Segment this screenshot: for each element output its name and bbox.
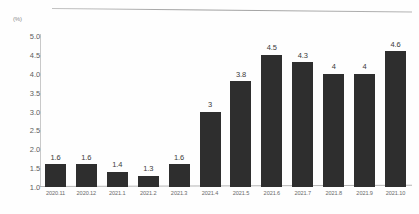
y-axis-tick-label: 1.0 — [16, 183, 40, 192]
bar-chart-figure: (%) 1.01.52.02.53.03.54.04.55.0 1.61.61.… — [0, 0, 419, 214]
x-axis-tick-label: 2021.6 — [264, 190, 281, 196]
bar-value-label: 4.5 — [267, 43, 277, 52]
bar-group[interactable]: 4.6 — [385, 40, 406, 187]
y-axis-tick-label: 3.0 — [16, 107, 40, 116]
x-axis-tick-label: 2021.7 — [295, 190, 312, 196]
bar-rect[interactable] — [230, 81, 251, 187]
bar-rect[interactable] — [292, 62, 313, 187]
bar-group[interactable]: 4 — [323, 62, 344, 187]
bar-group[interactable]: 1.6 — [76, 153, 97, 187]
bar-value-label: 1.6 — [174, 153, 184, 162]
bar-value-label: 4.3 — [298, 51, 308, 60]
bar-rect[interactable] — [323, 74, 344, 187]
x-axis-tick-label: 2021.5 — [233, 190, 250, 196]
bar-value-label: 3 — [208, 100, 212, 109]
bar-group[interactable]: 4.5 — [261, 43, 282, 187]
y-axis-tick-label: 2.5 — [16, 126, 40, 135]
y-axis-tick-label: 5.0 — [16, 32, 40, 41]
bar-rect[interactable] — [354, 74, 375, 187]
x-axis-tick-label: 2021.9 — [356, 190, 373, 196]
x-axis-tick-label: 2021.8 — [325, 190, 342, 196]
bar-value-label: 1.3 — [143, 164, 153, 173]
bar-value-label: 1.6 — [50, 153, 60, 162]
bar-group[interactable]: 3.8 — [230, 70, 251, 187]
x-axis-tick-label: 2021.2 — [140, 190, 157, 196]
bar-value-label: 1.4 — [112, 160, 122, 169]
x-axis-tick-label: 2021.1 — [109, 190, 126, 196]
bar-group[interactable]: 3 — [200, 100, 221, 187]
bar-rect[interactable] — [76, 164, 97, 187]
y-axis-unit-label: (%) — [13, 16, 22, 22]
bar-group[interactable]: 1.6 — [45, 153, 66, 187]
bar-value-label: 4 — [332, 62, 336, 71]
bar-group[interactable]: 1.4 — [107, 160, 128, 187]
y-axis-tick-label: 3.5 — [16, 88, 40, 97]
x-axis-tick-label: 2021.4 — [202, 190, 219, 196]
y-axis-tick-label: 1.5 — [16, 164, 40, 173]
bar-rect[interactable] — [169, 164, 190, 187]
x-axis-tick-label: 2020.11 — [46, 190, 65, 196]
y-axis-tick-label: 2.0 — [16, 145, 40, 154]
bar-rect[interactable] — [138, 176, 159, 187]
y-axis-tick-label: 4.5 — [16, 50, 40, 59]
bar-rect[interactable] — [261, 55, 282, 187]
bar-group[interactable]: 1.3 — [138, 164, 159, 187]
bar-rect[interactable] — [385, 51, 406, 187]
bar-rect[interactable] — [107, 172, 128, 187]
plot-area: 1.61.61.41.31.633.84.54.3444.6 — [40, 36, 411, 187]
bar-group[interactable]: 1.6 — [169, 153, 190, 187]
bar-value-label: 4.6 — [390, 40, 400, 49]
x-axis-tick-label: 2020.12 — [77, 190, 97, 196]
bar-rect[interactable] — [45, 164, 66, 187]
bar-value-label: 4 — [363, 62, 367, 71]
x-axis-tick-label: 2021.10 — [386, 190, 406, 196]
bar-group[interactable]: 4 — [354, 62, 375, 187]
bar-rect[interactable] — [200, 112, 221, 188]
bar-group[interactable]: 4.3 — [292, 51, 313, 187]
scan-artifact-line — [52, 8, 412, 12]
bar-value-label: 1.6 — [81, 153, 91, 162]
bar-value-label: 3.8 — [236, 70, 246, 79]
y-axis-tick-label: 4.0 — [16, 69, 40, 78]
x-axis-tick-label: 2021.3 — [171, 190, 188, 196]
